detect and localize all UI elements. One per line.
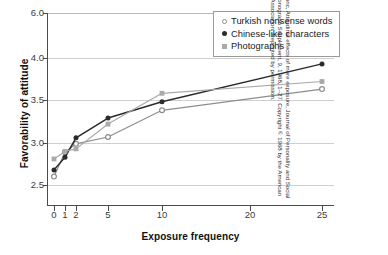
chart-root: 6.0 4.0 3.5 3.0 2.5 0 1 2 5 10 20 25 Fav… <box>0 0 388 255</box>
y-axis-title: Favorability of attitude <box>19 39 30 189</box>
square-icon <box>218 44 231 49</box>
xtick-label-5: 5 <box>105 209 110 220</box>
source-attribution: From R.S. Zajonc, Attitudinal effects of… <box>269 0 292 208</box>
xtick-label-20: 20 <box>245 209 256 220</box>
xtick-label-25: 25 <box>317 209 328 220</box>
open-circle-icon <box>218 19 231 24</box>
ytick-label-6-0: 6.0 <box>0 7 44 18</box>
xtick-label-10: 10 <box>157 209 168 220</box>
xtick-label-0: 0 <box>51 209 56 220</box>
xtick-label-1: 1 <box>62 209 67 220</box>
xtick-label-2: 2 <box>73 209 78 220</box>
filled-circle-icon <box>218 31 231 36</box>
x-axis-title: Exposure frequency <box>47 231 334 242</box>
